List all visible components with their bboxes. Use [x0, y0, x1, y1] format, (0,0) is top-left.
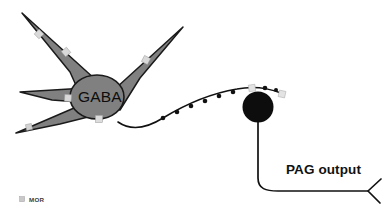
- mor-marker: [278, 90, 286, 98]
- gaba-label: GABA: [78, 88, 122, 105]
- bouton: [231, 90, 236, 95]
- bouton: [263, 86, 268, 91]
- circuit-diagram: GABA: [0, 0, 385, 218]
- mor-marker: [25, 123, 32, 130]
- legend-mor-marker-icon: [20, 197, 25, 202]
- bouton: [203, 99, 208, 104]
- legend-group: MOR: [20, 196, 45, 203]
- bouton: [189, 104, 194, 109]
- pag-output-axon: [258, 122, 368, 191]
- legend-mor-label: MOR: [29, 196, 44, 203]
- pag-output-soma: [243, 92, 274, 123]
- pag-output-label: PAG output: [286, 162, 361, 177]
- figure-canvas: GABA: [0, 0, 385, 218]
- bouton: [274, 88, 278, 92]
- mor-marker: [95, 115, 102, 122]
- pag-output-terminal-fork: [368, 179, 381, 203]
- mor-marker: [64, 94, 71, 101]
- mor-marker: [248, 84, 255, 91]
- bouton: [161, 116, 166, 121]
- bouton: [217, 94, 222, 99]
- bouton: [175, 110, 180, 115]
- pag-output-neuron-group: PAG output: [243, 92, 382, 204]
